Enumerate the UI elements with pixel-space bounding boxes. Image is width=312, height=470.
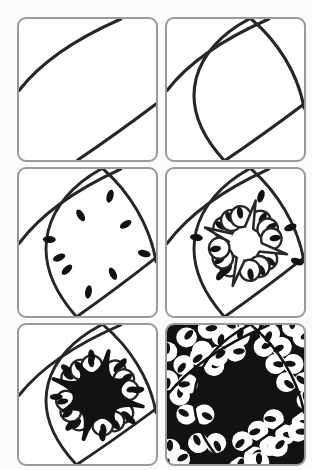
- guide-curves: [19, 19, 156, 160]
- curved-grid: [167, 19, 304, 160]
- step-5-drawing: [19, 325, 156, 464]
- step-1-panel: [17, 17, 158, 162]
- scallop-ring: [207, 204, 283, 282]
- step-4-drawing: [167, 169, 304, 316]
- step-2-drawing: [167, 19, 304, 160]
- step-5-panel: [17, 323, 158, 466]
- step-6-drawing: [167, 325, 304, 464]
- step-1-drawing: [19, 19, 156, 160]
- step-4-panel: [165, 167, 306, 318]
- step-6-panel: [165, 323, 306, 466]
- curved-grid: [167, 169, 304, 316]
- step-3-drawing: [19, 169, 156, 316]
- step-3-panel: [17, 167, 158, 318]
- tutorial-sheet: [0, 0, 312, 470]
- step-2-panel: [165, 17, 306, 162]
